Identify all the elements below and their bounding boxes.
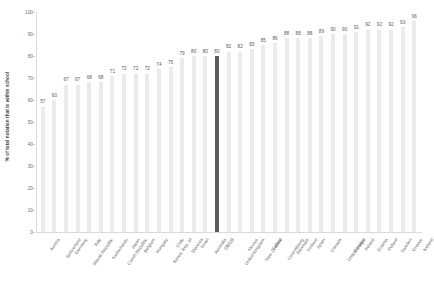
bar-slot[interactable]: 82	[234, 12, 246, 232]
bar[interactable]	[157, 69, 161, 232]
bar[interactable]	[227, 52, 231, 232]
y-tick-mark	[33, 78, 35, 79]
bar[interactable]	[145, 74, 149, 232]
bar-slot[interactable]: 96	[409, 12, 421, 232]
bar[interactable]	[110, 76, 114, 232]
y-tick-mark	[33, 100, 35, 101]
y-tick-mark	[33, 210, 35, 211]
bar-slot[interactable]: 88	[281, 12, 293, 232]
bar-highlighted[interactable]	[215, 56, 219, 232]
bar-value-label: 80	[203, 50, 208, 55]
bar-slot[interactable]: 91	[350, 12, 362, 232]
bar-slot[interactable]: 85	[258, 12, 270, 232]
bar[interactable]	[366, 30, 370, 232]
bar[interactable]	[64, 85, 68, 232]
bar[interactable]	[308, 38, 312, 232]
y-axis-title-text: % of total notation that is within schoo…	[6, 71, 11, 161]
bar[interactable]	[273, 43, 277, 232]
bar-slot[interactable]: 93	[397, 12, 409, 232]
bar[interactable]	[261, 45, 265, 232]
bar-value-label: 68	[87, 76, 92, 81]
bar-slot[interactable]: 72	[130, 12, 142, 232]
bar-slot[interactable]: 80	[211, 12, 223, 232]
bar-value-label: 90	[330, 28, 335, 33]
bar-value-label: 67	[75, 78, 80, 83]
bar[interactable]	[99, 82, 103, 232]
bar[interactable]	[52, 100, 56, 232]
bar[interactable]	[401, 27, 405, 232]
bar[interactable]	[180, 58, 184, 232]
bar-slot[interactable]: 80	[200, 12, 212, 232]
bar[interactable]	[169, 67, 173, 232]
y-tick-mark	[33, 166, 35, 167]
plot-area: 5760676768687172727274757980808082828385…	[36, 12, 421, 232]
y-tick-mark	[33, 232, 35, 233]
bar[interactable]	[238, 52, 242, 232]
bar-value-label: 72	[133, 67, 138, 72]
bar-slot[interactable]: 90	[327, 12, 339, 232]
bar-value-label: 68	[98, 76, 103, 81]
x-category-label: Austria	[49, 237, 61, 251]
y-tick-mark	[33, 56, 35, 57]
bar-slot[interactable]: 60	[49, 12, 61, 232]
bar[interactable]	[412, 21, 416, 232]
x-category-label: Canada	[329, 237, 342, 253]
bar-slot[interactable]: 68	[83, 12, 95, 232]
bar-slot[interactable]: 89	[316, 12, 328, 232]
bar[interactable]	[296, 38, 300, 232]
bar[interactable]	[122, 74, 126, 232]
bar[interactable]	[343, 34, 347, 232]
bar[interactable]	[76, 85, 80, 232]
bar-value-label: 92	[377, 23, 382, 28]
bar[interactable]	[192, 56, 196, 232]
bar-slot[interactable]: 92	[385, 12, 397, 232]
bar-value-label: 92	[388, 23, 393, 28]
bar[interactable]	[319, 36, 323, 232]
bar-slot[interactable]: 88	[304, 12, 316, 232]
bar-slot[interactable]: 79	[176, 12, 188, 232]
bar-value-label: 74	[156, 63, 161, 68]
bar-slot[interactable]: 83	[246, 12, 258, 232]
bar-slot[interactable]: 67	[72, 12, 84, 232]
bar[interactable]	[354, 32, 358, 232]
bar-slot[interactable]: 88	[292, 12, 304, 232]
y-axis-title: % of total notation that is within schoo…	[0, 0, 16, 232]
y-tick-mark	[33, 34, 35, 35]
bar-value-label: 90	[342, 28, 347, 33]
bar-slot[interactable]: 68	[95, 12, 107, 232]
bar-slot[interactable]: 57	[37, 12, 49, 232]
bar-slot[interactable]: 75	[165, 12, 177, 232]
bar[interactable]	[331, 34, 335, 232]
bar[interactable]	[250, 49, 254, 232]
bar-slot[interactable]: 90	[339, 12, 351, 232]
bar[interactable]	[134, 74, 138, 232]
bar-slot[interactable]: 72	[141, 12, 153, 232]
bar-value-label: 93	[400, 21, 405, 26]
bar-slot[interactable]: 92	[362, 12, 374, 232]
x-category-label: Sweden	[399, 237, 412, 253]
bar-value-label: 96	[412, 15, 417, 20]
bar[interactable]	[203, 56, 207, 232]
bar[interactable]	[87, 82, 91, 232]
bar[interactable]	[389, 30, 393, 232]
bar-slot[interactable]: 86	[269, 12, 281, 232]
bar-slot[interactable]: 74	[153, 12, 165, 232]
bar-slot[interactable]: 92	[374, 12, 386, 232]
bar-slot[interactable]: 80	[188, 12, 200, 232]
bar-slot[interactable]: 71	[107, 12, 119, 232]
bar[interactable]	[41, 107, 45, 232]
bar-series: 5760676768687172727274757980808082828385…	[36, 12, 421, 232]
bar-value-label: 91	[354, 26, 359, 31]
bar-value-label: 79	[180, 52, 185, 57]
bar-slot[interactable]: 67	[60, 12, 72, 232]
y-tick-mark	[33, 12, 35, 13]
bar-value-label: 80	[191, 50, 196, 55]
bar[interactable]	[377, 30, 381, 232]
y-tick-mark	[33, 122, 35, 123]
bar-slot[interactable]: 72	[118, 12, 130, 232]
bar-value-label: 75	[168, 61, 173, 66]
y-tick-mark	[33, 144, 35, 145]
bar-slot[interactable]: 82	[223, 12, 235, 232]
x-axis-category-labels: AustriaSwitzerlandGermanySlovak Republic…	[36, 234, 421, 292]
bar[interactable]	[285, 38, 289, 232]
